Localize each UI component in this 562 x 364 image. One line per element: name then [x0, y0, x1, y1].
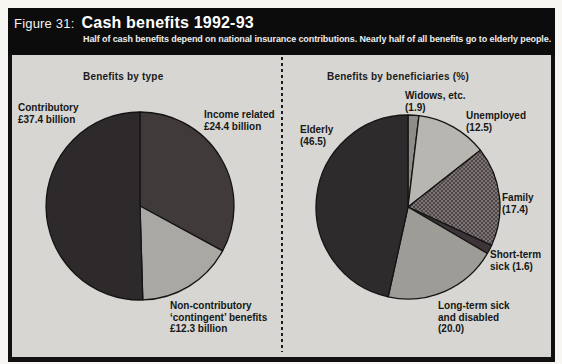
label-family: Family (17.4)	[502, 192, 534, 215]
figure-title: Cash benefits 1992-93	[82, 14, 254, 32]
label-short-term-sick: Short-term sick (1.6)	[490, 249, 541, 272]
panel-divider	[281, 57, 283, 352]
pie-slice-contributory	[46, 112, 143, 300]
label-contributory: Contributory £37.4 billion	[18, 102, 79, 125]
right-chart-title: Benefits by beneficiaries (%)	[327, 71, 469, 82]
label-widows: Widows, etc. (1.9)	[405, 90, 465, 113]
figure-number: Figure 31:	[14, 16, 75, 31]
figure-header: Figure 31: Cash benefits 1992-93 Half of…	[8, 8, 555, 55]
label-unemployed: Unemployed (12.5)	[466, 110, 526, 133]
label-long-term-sick: Long-term sick and disabled (20.0)	[438, 300, 510, 335]
label-elderly: Elderly (46.5)	[300, 124, 333, 147]
figure-page: Figure 31: Cash benefits 1992-93 Half of…	[0, 0, 562, 364]
benefits-by-beneficiaries-pie	[314, 113, 502, 301]
left-chart-title: Benefits by type	[83, 71, 163, 82]
figure-subtitle: Half of cash benefits depend on national…	[83, 34, 547, 44]
label-non-contributory: Non-contributory ‘contingent’ benefits £…	[170, 300, 267, 335]
benefits-by-type-pie	[43, 109, 237, 303]
label-income-related: Income related £24.4 billion	[204, 109, 275, 132]
